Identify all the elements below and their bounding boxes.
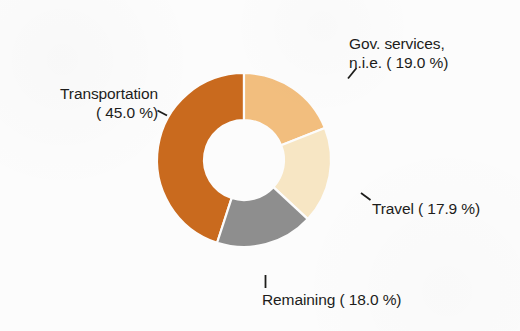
slice-label-transportation-line1: Transportation: [16, 84, 158, 103]
slice-label-remaining-line1: Remaining ( 18.0 %): [262, 290, 462, 309]
leader-line-transportation: [158, 111, 168, 116]
leader-line-travel: [361, 193, 371, 200]
slice-label-gov-services: Gov. services, n.i.e. ( 19.0 %): [349, 34, 514, 72]
donut-slices: [157, 73, 331, 247]
slice-label-remaining: Remaining ( 18.0 %): [262, 290, 462, 309]
slice-label-travel: Travel ( 17.9 %): [372, 199, 517, 218]
slice-label-travel-line1: Travel ( 17.9 %): [372, 199, 517, 218]
slice-label-transportation: Transportation ( 45.0 %): [16, 84, 158, 122]
slice-label-gov-services-line2: n.i.e. ( 19.0 %): [349, 53, 514, 72]
donut-chart-figure: Transportation ( 45.0 %) Gov. services, …: [0, 0, 520, 331]
slice-label-gov-services-line1: Gov. services,: [349, 34, 514, 53]
slice-label-transportation-line2: ( 45.0 %): [16, 103, 158, 122]
